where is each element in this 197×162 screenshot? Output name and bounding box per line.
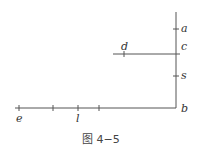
figure-caption: 图 4−5 <box>82 133 120 146</box>
label-c: c <box>181 40 187 53</box>
label-a: a <box>181 22 188 35</box>
label-d: d <box>121 40 128 53</box>
label-l: l <box>76 112 80 125</box>
label-s: s <box>181 69 187 82</box>
label-e: e <box>16 112 23 125</box>
diagram-canvas: a c d s b e l 图 4−5 <box>0 0 197 162</box>
label-b: b <box>181 102 188 115</box>
